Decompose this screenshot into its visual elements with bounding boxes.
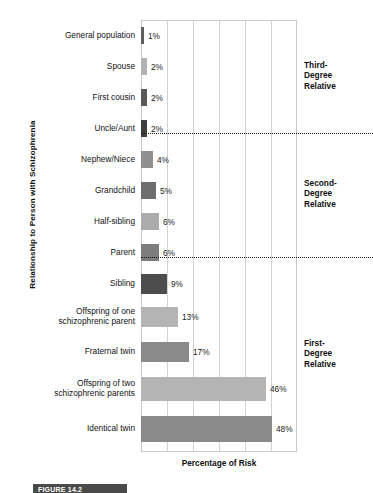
group-label-line1: Second- — [304, 178, 337, 188]
bar-cell: 6% — [141, 206, 297, 237]
category-label-line1: Parent — [111, 247, 135, 257]
bar-cell: 2% — [141, 82, 297, 113]
bar — [141, 182, 156, 199]
category-label: First cousin — [0, 93, 141, 103]
category-label: Offspring of one schizophrenic parent — [0, 307, 141, 327]
table-row: Nephew/Niece 4% — [0, 144, 373, 175]
bar-cell: 6% — [141, 237, 297, 268]
category-label-line1: Nephew/Niece — [81, 154, 135, 164]
bar — [141, 307, 178, 327]
category-label: Offspring of two schizophrenic parents — [0, 379, 141, 399]
value-label: 17% — [193, 347, 210, 357]
value-label: 1% — [148, 31, 160, 41]
value-label: 6% — [163, 248, 175, 258]
group-label-third-degree: Third- Degree Relative — [304, 60, 373, 91]
group-divider-second-first — [141, 257, 373, 258]
table-row: Offspring of two schizophrenic parents 4… — [0, 369, 373, 409]
bar — [141, 342, 189, 362]
category-label: General population — [0, 31, 141, 41]
category-label-line1: Half-sibling — [94, 216, 135, 226]
group-label-line2: Degree — [304, 348, 332, 358]
table-row: Half-sibling 6% — [0, 206, 373, 237]
bar-cell: 1% — [141, 20, 297, 51]
value-label: 2% — [151, 93, 163, 103]
category-label-line1: Uncle/Aunt — [94, 123, 135, 133]
value-label: 6% — [163, 217, 175, 227]
figure-number: FIGURE 14.2 — [38, 486, 82, 493]
bar-cell: 2% — [141, 51, 297, 82]
value-label: 2% — [151, 124, 163, 134]
category-label-line1: Sibling — [110, 278, 135, 288]
group-label-second-degree: Second- Degree Relative — [304, 178, 373, 209]
group-label-first-degree: First- Degree Relative — [304, 338, 373, 369]
category-label: Half-sibling — [0, 217, 141, 227]
bar-cell: 9% — [141, 268, 297, 299]
bar — [141, 151, 153, 168]
figure-container: Relationship to Person with Schizophreni… — [0, 0, 373, 493]
group-label-line2: Degree — [304, 70, 332, 80]
bar-cell: 46% — [141, 369, 297, 409]
category-label: Parent — [0, 248, 141, 258]
value-label: 48% — [276, 424, 293, 434]
category-label-line2: schizophrenic parent — [0, 317, 135, 327]
category-label: Identical twin — [0, 424, 141, 434]
category-label-line1: Offspring of one — [76, 306, 135, 316]
category-label-line1: Spouse — [107, 61, 135, 71]
category-label-line2: schizophrenic parents — [0, 389, 135, 399]
category-label-line1: Fraternal twin — [85, 346, 135, 356]
value-label: 5% — [160, 186, 172, 196]
table-row: Uncle/Aunt 2% — [0, 113, 373, 144]
value-label: 2% — [151, 62, 163, 72]
category-label-line1: First cousin — [93, 92, 135, 102]
bar-cell: 48% — [141, 409, 297, 449]
bar — [141, 58, 147, 75]
group-label-line3: Relative — [304, 81, 336, 91]
bar — [141, 89, 147, 106]
bar-cell: 4% — [141, 144, 297, 175]
bar-cell: 5% — [141, 175, 297, 206]
category-label-line1: Identical twin — [87, 423, 135, 433]
group-divider-third-second — [141, 133, 373, 134]
bar-cell: 2% — [141, 113, 297, 144]
category-label: Sibling — [0, 279, 141, 289]
category-label: Grandchild — [0, 186, 141, 196]
category-label: Spouse — [0, 62, 141, 72]
bar-cell: 13% — [141, 299, 297, 335]
bar — [141, 27, 144, 44]
group-label-line1: Third- — [304, 60, 328, 70]
category-label: Uncle/Aunt — [0, 124, 141, 134]
group-label-line1: First- — [304, 338, 325, 348]
value-label: 13% — [182, 312, 199, 322]
bar — [141, 120, 147, 137]
table-row: Parent 6% — [0, 237, 373, 268]
group-label-line3: Relative — [304, 199, 336, 209]
group-label-line2: Degree — [304, 188, 332, 198]
group-label-line3: Relative — [304, 359, 336, 369]
category-label-line1: Offspring of two — [77, 378, 135, 388]
bar-cell: 17% — [141, 335, 297, 369]
category-label: Nephew/Niece — [0, 155, 141, 165]
value-label: 4% — [157, 155, 169, 165]
category-label-line1: Grandchild — [95, 185, 135, 195]
bar — [141, 274, 167, 294]
table-row: Identical twin 48% — [0, 409, 373, 449]
bar — [141, 244, 159, 261]
bar — [141, 377, 266, 401]
table-row: Offspring of one schizophrenic parent 13… — [0, 299, 373, 335]
table-row: General population 1% — [0, 20, 373, 51]
bar — [141, 213, 159, 230]
value-label: 9% — [171, 279, 183, 289]
category-label-line1: General population — [65, 30, 135, 40]
x-axis-title: Percentage of Risk — [141, 458, 297, 468]
category-label: Fraternal twin — [0, 347, 141, 357]
value-label: 46% — [270, 384, 287, 394]
table-row: Sibling 9% — [0, 268, 373, 299]
bar — [141, 416, 272, 442]
